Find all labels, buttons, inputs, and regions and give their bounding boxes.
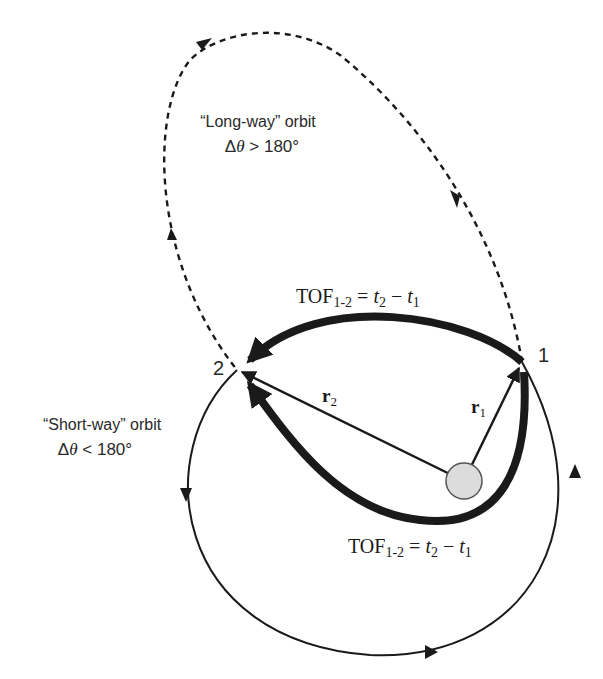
position-vector-r1 xyxy=(464,368,519,481)
tof-top-label: TOF1-2 = t2 − t1 xyxy=(296,285,420,310)
long-way-label: “Long-way” orbit xyxy=(200,113,316,130)
tof-bottom-label: TOF1-2 = t2 − t1 xyxy=(348,535,472,560)
orbit-arrow-right-icon xyxy=(569,464,581,478)
orbit-arrow-bottom-icon xyxy=(425,645,438,659)
short-way-angle-label: Δθ < 180° xyxy=(58,440,132,459)
central-body xyxy=(446,463,482,499)
position-vector-r2 xyxy=(242,372,464,481)
short-way-transfer-arc xyxy=(250,317,522,362)
dashed-arrow-left-icon xyxy=(167,228,177,240)
point-1-label: 1 xyxy=(538,344,549,366)
short-way-label: “Short-way” orbit xyxy=(43,416,162,433)
r1-label: r1 xyxy=(471,396,486,420)
long-way-angle-label: Δθ > 180° xyxy=(225,137,299,156)
orbit-arrow-left-icon xyxy=(180,488,192,502)
point-2-label: 2 xyxy=(213,357,224,379)
long-way-transfer-arc xyxy=(250,372,525,521)
r2-label: r2 xyxy=(322,385,337,409)
lambert-orbit-diagram: “Long-way” orbit Δθ > 180° “Short-way” o… xyxy=(0,0,603,679)
